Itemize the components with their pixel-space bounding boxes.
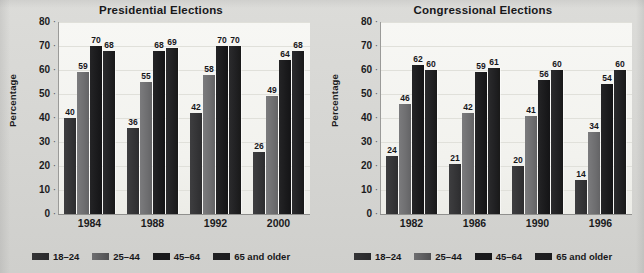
bar: 70: [229, 46, 241, 214]
legend-swatch-icon: [32, 253, 49, 260]
legend-label: 65 and older: [234, 251, 290, 262]
bar: 56: [538, 80, 550, 214]
bar-groups: 40597068365568694258707026496468: [58, 22, 310, 214]
y-tick: 30·: [22, 136, 56, 148]
legend-item[interactable]: 18–24: [32, 251, 79, 262]
y-tick: 80·: [344, 16, 378, 28]
x-axis-labels: 1984198819922000: [58, 217, 310, 229]
y-tick: 60·: [344, 64, 378, 76]
bar: 20: [512, 166, 524, 214]
bar: 59: [77, 72, 89, 214]
plot-wrapper: 80· 70· 60· 50· 40· 30· 20· 10· 0·: [344, 22, 640, 246]
bar-value-label: 41: [526, 106, 535, 115]
bar-value-label: 40: [65, 108, 74, 117]
legend-swatch-icon: [414, 253, 431, 260]
bar: 70: [216, 46, 228, 214]
bar-value-label: 36: [128, 118, 137, 127]
bar: 14: [575, 180, 587, 214]
tick-mark-icon: ·: [52, 88, 56, 100]
tick-mark-icon: ·: [52, 40, 56, 52]
tick-mark-icon: ·: [374, 64, 378, 76]
legend-label: 45–64: [174, 251, 200, 262]
bar: 62: [412, 65, 424, 214]
chart-panels: Presidential Elections Percentage 80· 70…: [0, 0, 644, 246]
y-tick-label: 10: [39, 184, 50, 195]
legend-item[interactable]: 45–64: [475, 251, 522, 262]
bar-value-label: 54: [602, 74, 611, 83]
tick-mark-icon: ·: [374, 208, 378, 220]
bar-group: 36556869: [121, 22, 184, 214]
legend-label: 45–64: [496, 251, 522, 262]
legend-label: 18–24: [375, 251, 401, 262]
legend-group: 18–2425–4445–6465 and older: [0, 248, 322, 273]
bar-value-label: 21: [450, 154, 459, 163]
y-tick-label: 70: [361, 40, 372, 51]
bar: 46: [399, 104, 411, 214]
y-tick-label: 30: [39, 136, 50, 147]
bar-value-label: 59: [78, 62, 87, 71]
chart-panel-congressional: Congressional Elections Percentage 80· 7…: [322, 0, 644, 246]
tick-mark-icon: ·: [374, 160, 378, 172]
legend-label: 25–44: [435, 251, 461, 262]
bar: 68: [292, 51, 304, 214]
tick-mark-icon: ·: [52, 16, 56, 28]
bar-value-label: 49: [267, 86, 276, 95]
bar-cluster: 40597068: [64, 22, 115, 214]
tick-mark-icon: ·: [374, 88, 378, 100]
y-tick: 40·: [22, 112, 56, 124]
x-axis-label: 2000: [247, 217, 310, 229]
y-tick: 20·: [344, 160, 378, 172]
bar: 42: [190, 113, 202, 214]
bar: 60: [614, 70, 626, 214]
bar-cluster: 21425961: [449, 22, 500, 214]
panel-title: Congressional Elections: [322, 4, 644, 16]
bar-value-label: 58: [204, 65, 213, 74]
bar: 68: [153, 51, 165, 214]
y-tick: 50·: [344, 88, 378, 100]
legend-item[interactable]: 65 and older: [213, 251, 290, 262]
bar-cluster: 36556869: [127, 22, 178, 214]
y-axis-ticks: 80· 70· 60· 50· 40· 30· 20· 10· 0·: [344, 22, 378, 214]
bar-value-label: 46: [400, 94, 409, 103]
x-axis-label: 1984: [58, 217, 121, 229]
y-tick-label: 80: [361, 16, 372, 27]
bar-group: 14345460: [569, 22, 632, 214]
legend-group: 18–2425–4445–6465 and older: [322, 248, 644, 273]
legend-item[interactable]: 25–44: [92, 251, 139, 262]
bar: 68: [103, 51, 115, 214]
bar-cluster: 14345460: [575, 22, 626, 214]
y-tick-label: 40: [361, 112, 372, 123]
tick-mark-icon: ·: [52, 136, 56, 148]
bar-value-label: 34: [589, 122, 598, 131]
bar: 61: [488, 68, 500, 214]
x-axis-labels: 1982198619901996: [380, 217, 632, 229]
tick-mark-icon: ·: [374, 136, 378, 148]
bar-cluster: 42587070: [190, 22, 241, 214]
legend-item[interactable]: 18–24: [354, 251, 401, 262]
legend-item[interactable]: 65 and older: [535, 251, 612, 262]
bar: 59: [475, 72, 487, 214]
x-axis-label: 1982: [380, 217, 443, 229]
legend-item[interactable]: 25–44: [414, 251, 461, 262]
bar: 54: [601, 84, 613, 214]
legend-swatch-icon: [535, 253, 552, 260]
bar-value-label: 70: [217, 36, 226, 45]
y-tick-label: 0: [366, 208, 372, 219]
tick-mark-icon: ·: [374, 40, 378, 52]
bar: 41: [525, 116, 537, 214]
legend-item[interactable]: 45–64: [153, 251, 200, 262]
bar-value-label: 26: [254, 142, 263, 151]
x-axis-line: [380, 214, 632, 215]
y-tick-label: 20: [39, 160, 50, 171]
y-tick-label: 80: [39, 16, 50, 27]
y-tick-label: 60: [39, 64, 50, 75]
y-tick-label: 70: [39, 40, 50, 51]
bar: 34: [588, 132, 600, 214]
y-axis-title: Percentage: [2, 0, 24, 200]
y-axis-ticks: 80· 70· 60· 50· 40· 30· 20· 10· 0·: [22, 22, 56, 214]
y-axis-title-text: Percentage: [330, 73, 341, 126]
y-axis-title: Percentage: [324, 0, 346, 200]
tick-mark-icon: ·: [52, 64, 56, 76]
bar-value-label: 60: [426, 60, 435, 69]
bar: 55: [140, 82, 152, 214]
